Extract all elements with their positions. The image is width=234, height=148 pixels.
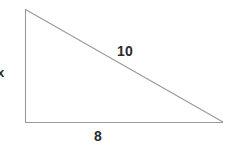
figure-canvas: x 10 8 [0,0,234,148]
hypotenuse-label: 10 [117,44,133,58]
vertical-side-label: x [0,66,4,79]
hypotenuse-line [26,10,224,123]
right-triangle-graphic [0,0,234,148]
base-label: 8 [94,129,102,143]
